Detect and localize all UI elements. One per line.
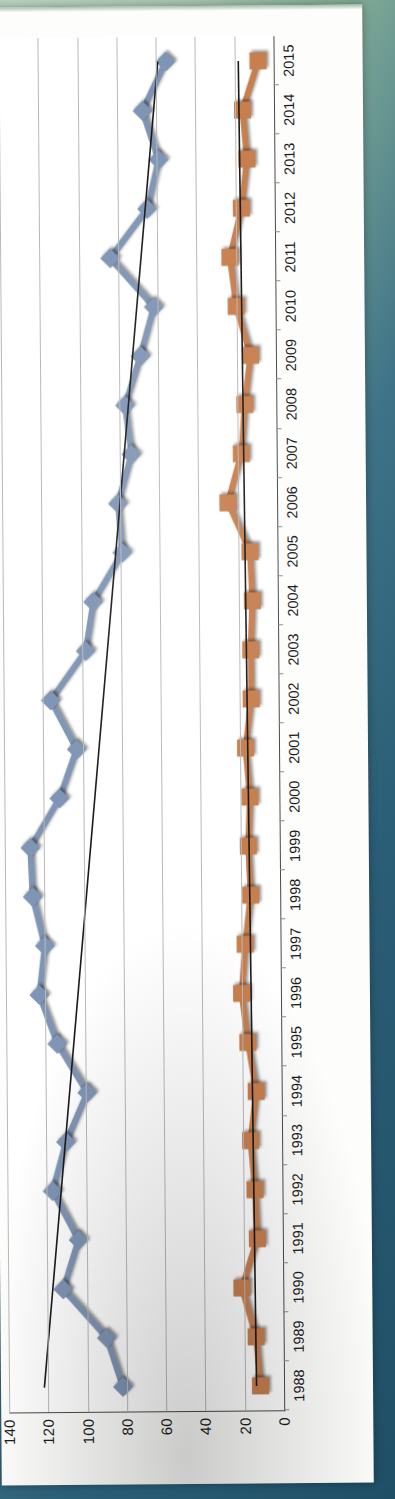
x-axis-tick-label: 2013 xyxy=(281,143,297,175)
x-axis-tick-label: 2007 xyxy=(284,437,300,469)
x-axis-tick-label: 1994 xyxy=(289,1075,305,1107)
x-axis-tick xyxy=(281,1017,286,1018)
x-axis-tick xyxy=(283,1262,288,1263)
data-point-marker xyxy=(242,347,258,363)
x-axis-tick-label: 1991 xyxy=(290,1222,306,1254)
rotated-chart-container: 0204060801001201401988198919901991199219… xyxy=(0,5,346,1448)
y-axis-tick-label: 20 xyxy=(236,1410,253,1434)
x-axis-tick xyxy=(284,1360,289,1361)
x-axis-tick xyxy=(275,232,280,233)
x-axis-tick xyxy=(280,869,285,870)
x-axis-tick-label: 1990 xyxy=(290,1271,306,1303)
x-axis-tick xyxy=(274,84,279,85)
x-axis-tick-label: 1997 xyxy=(287,928,303,960)
x-axis-tick-label: 2005 xyxy=(284,535,300,567)
y-axis-tick-label: 120 xyxy=(40,1412,57,1445)
data-point-marker xyxy=(220,495,236,511)
x-axis-tick-label: 1989 xyxy=(291,1320,307,1352)
x-axis-tick xyxy=(275,182,280,183)
x-axis-tick-label: 2010 xyxy=(282,290,298,322)
x-axis-tick xyxy=(278,575,283,576)
data-point-marker xyxy=(133,101,152,120)
data-point-marker xyxy=(239,151,255,167)
x-axis-tick-label: 2009 xyxy=(283,339,299,371)
x-axis-tick xyxy=(275,281,280,282)
data-point-marker xyxy=(250,53,266,69)
data-point-marker xyxy=(108,494,127,513)
data-point-marker xyxy=(247,1182,263,1198)
x-axis-tick xyxy=(280,918,285,919)
x-axis-tick-label: 2003 xyxy=(285,633,301,665)
data-point-marker xyxy=(113,1377,132,1396)
photo-background: 0204060801001201401988198919901991199219… xyxy=(0,0,395,1499)
data-point-marker xyxy=(234,1280,250,1296)
x-axis-tick xyxy=(281,968,286,969)
plot-area: 0204060801001201401988198919901991199219… xyxy=(0,36,285,1413)
x-axis-tick-label: 1993 xyxy=(289,1124,305,1156)
x-axis-tick xyxy=(282,1164,287,1165)
y-axis-tick-label: 60 xyxy=(158,1411,175,1435)
x-axis-tick-label: 2014 xyxy=(281,94,297,126)
data-point-marker xyxy=(252,1378,268,1394)
data-point-marker xyxy=(249,1231,265,1247)
x-axis-tick-label: 1988 xyxy=(291,1369,307,1401)
y-axis-tick-label: 80 xyxy=(119,1411,136,1435)
data-point-marker xyxy=(243,642,259,658)
x-axis-tick xyxy=(280,820,285,821)
data-point-marker xyxy=(243,887,259,903)
data-point-marker xyxy=(235,102,251,118)
y-axis-tick-label: 0 xyxy=(276,1410,293,1426)
data-point-marker xyxy=(248,1083,264,1099)
data-point-marker xyxy=(242,789,258,805)
y-axis-tick-label: 100 xyxy=(79,1412,96,1445)
y-axis-tick-label: 40 xyxy=(197,1411,214,1435)
x-axis-tick-label: 2015 xyxy=(281,44,297,76)
x-axis-tick xyxy=(278,673,283,674)
x-axis-tick xyxy=(278,624,283,625)
data-point-marker xyxy=(244,593,260,609)
data-point-marker xyxy=(233,446,249,462)
x-axis-tick-label: 1992 xyxy=(289,1173,305,1205)
x-axis-tick-label: 2011 xyxy=(282,241,298,272)
x-axis-tick-label: 2000 xyxy=(286,781,302,813)
x-axis-tick xyxy=(284,1409,289,1410)
x-axis-tick xyxy=(279,722,284,723)
data-point-marker xyxy=(243,691,259,707)
data-point-marker xyxy=(149,150,168,169)
x-axis-tick xyxy=(277,477,282,478)
data-point-marker xyxy=(243,1133,259,1149)
x-axis-tick xyxy=(282,1066,287,1067)
x-axis-tick xyxy=(276,379,281,380)
x-axis-tick xyxy=(283,1311,288,1312)
x-axis-tick-label: 2002 xyxy=(286,682,302,714)
y-axis-tick-label: 140 xyxy=(1,1412,18,1445)
data-point-marker xyxy=(156,52,175,71)
x-axis-tick-label: 1995 xyxy=(288,1026,304,1058)
x-axis-tick-label: 2004 xyxy=(285,584,301,616)
x-axis-tick-label: 1998 xyxy=(287,879,303,911)
data-point-marker xyxy=(23,887,42,906)
x-axis-tick-label: 1999 xyxy=(287,830,303,862)
x-axis-tick xyxy=(274,133,279,134)
x-axis-tick-label: 2001 xyxy=(286,731,302,763)
x-axis-tick xyxy=(283,1213,288,1214)
x-axis-tick-label: 1996 xyxy=(288,977,304,1009)
x-axis-tick xyxy=(282,1115,287,1116)
x-axis-tick xyxy=(279,771,284,772)
x-axis-tick xyxy=(277,526,282,527)
chart-paper: 0204060801001201401988198919901991199219… xyxy=(0,5,374,1486)
x-axis-tick-label: 2012 xyxy=(282,192,298,224)
x-axis-tick xyxy=(276,330,281,331)
x-axis-tick-label: 2006 xyxy=(284,486,300,518)
data-point-marker xyxy=(237,396,253,412)
x-axis-tick-label: 2008 xyxy=(283,388,299,420)
x-axis-tick xyxy=(277,428,282,429)
